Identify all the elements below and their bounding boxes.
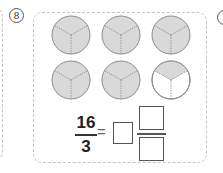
answer-fraction-bar [137,133,166,135]
fraction-denominator: 3 [75,138,97,156]
fraction-circle [102,61,140,99]
fraction-numerator: 16 [75,114,97,132]
improper-fraction: 16 3 [75,114,97,156]
fraction-circle [102,16,140,54]
denominator-answer-box[interactable] [139,137,164,161]
fraction-circles-figure [0,0,223,173]
fraction-circle [52,61,90,99]
fraction-circle [152,16,190,54]
equals-sign: = [97,123,106,140]
fraction-bar [75,134,97,136]
whole-number-answer-box[interactable] [113,122,133,144]
numerator-answer-box[interactable] [139,106,164,130]
fraction-circle [52,16,90,54]
fraction-circle-partial [152,61,190,99]
